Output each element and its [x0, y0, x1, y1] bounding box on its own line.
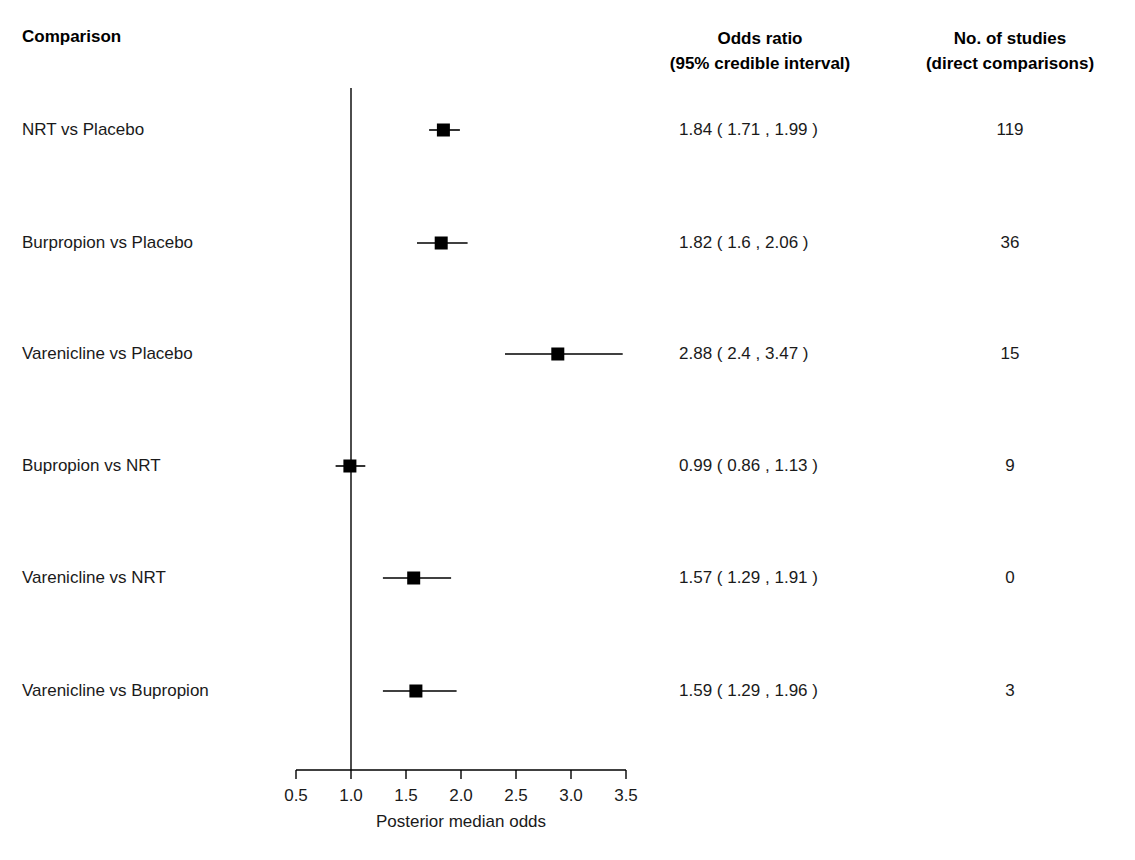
- row-label-comparison: Bupropion vs NRT: [22, 456, 161, 476]
- forest-plot-figure: Comparison Odds ratio (95% credible inte…: [0, 0, 1135, 860]
- x-axis-tick-label: 1.0: [339, 786, 363, 806]
- row-value-no-of-studies: 9: [890, 456, 1130, 476]
- axis-title-x: Posterior median odds: [296, 812, 626, 832]
- x-axis-tick-label: 2.0: [449, 786, 473, 806]
- row-value-odds-ratio: 1.57 ( 1.29 , 1.91 ): [679, 568, 818, 588]
- row-value-no-of-studies: 119: [890, 120, 1130, 140]
- point-estimate-marker: [435, 237, 448, 250]
- row-label-comparison: Burpropion vs Placebo: [22, 233, 193, 253]
- row-value-no-of-studies: 0: [890, 568, 1130, 588]
- row-label-comparison: NRT vs Placebo: [22, 120, 144, 140]
- point-estimate-marker: [437, 124, 450, 137]
- row-value-odds-ratio: 1.59 ( 1.29 , 1.96 ): [679, 681, 818, 701]
- point-estimate-marker: [407, 572, 420, 585]
- x-axis-tick-label: 0.5: [284, 786, 308, 806]
- row-value-no-of-studies: 36: [890, 233, 1130, 253]
- row-value-odds-ratio: 2.88 ( 2.4 , 3.47 ): [679, 344, 808, 364]
- row-label-comparison: Varenicline vs Bupropion: [22, 681, 209, 701]
- row-value-odds-ratio: 1.84 ( 1.71 , 1.99 ): [679, 120, 818, 140]
- x-axis-tick-label: 3.0: [559, 786, 583, 806]
- point-estimate-marker: [409, 685, 422, 698]
- point-estimate-marker: [343, 460, 356, 473]
- row-label-comparison: Varenicline vs Placebo: [22, 344, 193, 364]
- x-axis-tick-label: 3.5: [614, 786, 638, 806]
- point-estimate-marker: [551, 348, 564, 361]
- x-axis-tick-label: 2.5: [504, 786, 528, 806]
- x-axis-tick-label: 1.5: [394, 786, 418, 806]
- row-value-no-of-studies: 15: [890, 344, 1130, 364]
- row-value-no-of-studies: 3: [890, 681, 1130, 701]
- row-value-odds-ratio: 0.99 ( 0.86 , 1.13 ): [679, 456, 818, 476]
- row-value-odds-ratio: 1.82 ( 1.6 , 2.06 ): [679, 233, 808, 253]
- row-label-comparison: Varenicline vs NRT: [22, 568, 166, 588]
